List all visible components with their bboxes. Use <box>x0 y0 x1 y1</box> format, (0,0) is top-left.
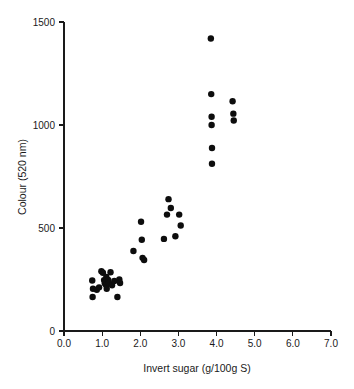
y-tick-label: 0 <box>49 326 55 337</box>
data-point <box>172 233 178 239</box>
data-point <box>178 222 184 228</box>
data-point <box>161 236 167 242</box>
y-tick-label: 500 <box>38 223 55 234</box>
data-point <box>139 237 145 243</box>
data-point <box>208 122 214 128</box>
x-tick-label: 4.0 <box>210 338 224 349</box>
x-tick-label: 3.0 <box>171 338 185 349</box>
x-tick-label: 2.0 <box>133 338 147 349</box>
data-point <box>138 219 144 225</box>
y-tick-label: 1000 <box>33 120 56 131</box>
data-point <box>130 248 136 254</box>
x-axis-ticks: 0.01.02.03.04.05.06.07.0 <box>57 331 338 349</box>
data-point <box>229 98 235 104</box>
y-axis-ticks: 050010001500 <box>33 17 64 337</box>
data-point <box>164 211 170 217</box>
x-tick-label: 5.0 <box>248 338 262 349</box>
data-point <box>176 211 182 217</box>
data-point <box>89 277 95 283</box>
y-axis-title: Colour (520 nm) <box>16 139 28 215</box>
data-point <box>165 196 171 202</box>
scatter-plot-figure: 0.01.02.03.04.05.06.07.0 050010001500 In… <box>0 0 354 389</box>
data-point <box>209 145 215 151</box>
data-point <box>231 117 237 123</box>
data-point <box>89 294 95 300</box>
plot-canvas: 0.01.02.03.04.05.06.07.0 050010001500 In… <box>0 0 354 389</box>
x-tick-label: 0.0 <box>57 338 71 349</box>
data-point <box>107 269 113 275</box>
x-tick-label: 1.0 <box>95 338 109 349</box>
data-point <box>104 286 110 292</box>
data-point <box>208 35 214 41</box>
x-axis-title: Invert sugar (g/100g S) <box>143 362 250 374</box>
data-point <box>209 161 215 167</box>
data-points-group <box>89 35 237 300</box>
data-point <box>208 91 214 97</box>
y-tick-label: 1500 <box>33 17 56 28</box>
data-point <box>96 284 102 290</box>
data-point <box>117 280 123 286</box>
data-point <box>230 110 236 116</box>
data-point <box>114 294 120 300</box>
x-tick-label: 7.0 <box>324 338 338 349</box>
data-point <box>208 114 214 120</box>
data-point <box>141 257 147 263</box>
data-point <box>168 205 174 211</box>
x-tick-label: 6.0 <box>286 338 300 349</box>
